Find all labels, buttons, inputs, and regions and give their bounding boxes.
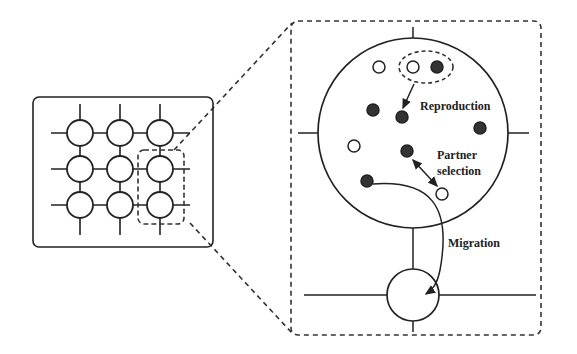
individual-filled (431, 61, 443, 73)
deme-node (67, 192, 93, 218)
partner-selection-label-line1: Partner (437, 148, 478, 162)
deme-node (107, 156, 133, 182)
individual-hollow (348, 140, 360, 152)
deme-node (67, 120, 93, 146)
individual-hollow (407, 61, 419, 73)
deme-node (147, 156, 173, 182)
individual-filled (367, 104, 379, 116)
individual-filled (474, 122, 486, 134)
deme-node (107, 192, 133, 218)
migration-label: Migration (448, 236, 500, 250)
zoom-connector-lines (174, 23, 292, 333)
partner-selection-label-line2: selection (437, 164, 481, 178)
individual-filled (401, 145, 413, 157)
individual-filled (396, 111, 408, 123)
island-model-diagram: Reproduction Partner selection Migration (0, 0, 577, 354)
deme-nodes (67, 120, 173, 218)
deme-node (147, 192, 173, 218)
reproduction-label: Reproduction (420, 99, 491, 113)
individual-hollow (436, 188, 448, 200)
population-grid (33, 97, 213, 247)
deme-node (67, 156, 93, 182)
deme-node (107, 120, 133, 146)
detail-view: Reproduction Partner selection Migration (291, 21, 541, 335)
deme-node (147, 120, 173, 146)
deme-neighbor (387, 269, 439, 321)
individual-hollow (373, 61, 385, 73)
individual-filled (361, 175, 373, 187)
